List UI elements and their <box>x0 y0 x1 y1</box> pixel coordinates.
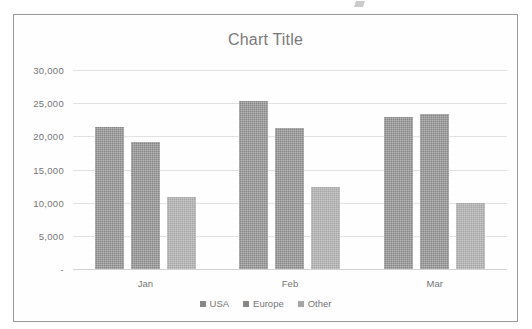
legend-item-label: Europe <box>253 298 284 309</box>
bar-group: Mar <box>362 70 507 269</box>
bars <box>218 70 363 269</box>
legend-item-other[interactable]: Other <box>298 298 332 309</box>
bar-europe-feb[interactable] <box>275 128 304 269</box>
y-axis-tick-label: 25,000 <box>33 98 64 109</box>
bars <box>73 70 218 269</box>
gridline <box>73 269 507 270</box>
y-axis-tick-label: - <box>61 264 64 275</box>
bar-usa-jan[interactable] <box>95 127 124 269</box>
chart-legend[interactable]: USAEuropeOther <box>14 298 517 309</box>
x-axis-tick-label: Feb <box>218 278 363 289</box>
scan-artifact <box>354 1 365 7</box>
x-axis-tick-label: Jan <box>73 278 218 289</box>
bar-group: Feb <box>218 70 363 269</box>
bar-europe-jan[interactable] <box>131 142 160 269</box>
bar-usa-mar[interactable] <box>384 117 413 269</box>
y-axis-tick-label: 5,000 <box>39 230 64 241</box>
legend-swatch-icon <box>200 301 206 307</box>
legend-swatch-icon <box>298 301 304 307</box>
y-axis-tick-label: 20,000 <box>33 131 64 142</box>
x-axis-tick-label: Mar <box>362 278 507 289</box>
y-axis-tick-label: 15,000 <box>33 164 64 175</box>
chart-container[interactable]: Chart Title 30,00025,00020,00015,00010,0… <box>13 14 518 322</box>
legend-item-label: USA <box>210 298 230 309</box>
y-axis-tick-label: 30,000 <box>33 65 64 76</box>
bar-group: Jan <box>73 70 218 269</box>
legend-item-europe[interactable]: Europe <box>243 298 284 309</box>
bar-europe-mar[interactable] <box>420 114 449 269</box>
bars <box>362 70 507 269</box>
bar-other-mar[interactable] <box>456 203 485 269</box>
legend-swatch-icon <box>243 301 249 307</box>
plot-area: 30,00025,00020,00015,00010,0005,000- Jan… <box>73 70 507 269</box>
legend-item-usa[interactable]: USA <box>200 298 230 309</box>
bar-usa-feb[interactable] <box>239 101 268 269</box>
y-axis-tick-label: 10,000 <box>33 197 64 208</box>
chart-title: Chart Title <box>14 31 517 49</box>
bar-other-jan[interactable] <box>167 197 196 269</box>
bar-other-feb[interactable] <box>311 187 340 269</box>
legend-item-label: Other <box>308 298 332 309</box>
